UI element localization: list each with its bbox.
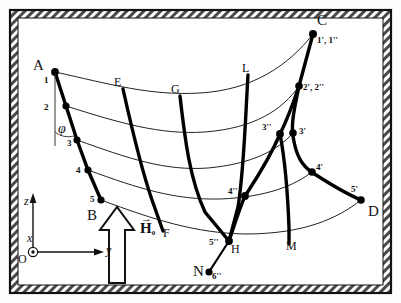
node-2prime — [295, 82, 303, 90]
label-node-4-doubleprime: 4'' — [228, 187, 238, 196]
label-axis-z: z — [24, 195, 29, 207]
label-field-vector-H0: → H0 — [140, 221, 155, 237]
node-5prime — [357, 196, 365, 204]
label-node-5: 5 — [90, 195, 95, 204]
field-vector-subscript: 0 — [152, 229, 156, 237]
node-4prime — [308, 168, 316, 176]
label-node-4: 4 — [76, 166, 81, 175]
node-1prime — [309, 30, 317, 38]
label-node-1-prime-doubleprime: 1', 1'' — [317, 36, 338, 45]
label-point-B: B — [87, 208, 97, 223]
node-5 — [97, 196, 104, 203]
label-node-3: 3 — [67, 139, 72, 148]
label-point-L: L — [242, 62, 249, 74]
label-point-E: E — [114, 76, 121, 88]
label-point-N: N — [193, 264, 204, 279]
label-node-5-prime: 5' — [351, 185, 358, 194]
node-4 — [84, 166, 91, 173]
label-axis-x: x — [27, 232, 32, 244]
label-point-M: M — [286, 240, 297, 252]
label-node-3-prime: 3' — [299, 127, 306, 136]
node-3doubleprime — [276, 130, 284, 138]
node-3 — [73, 136, 80, 143]
diagram-svg — [0, 0, 401, 303]
label-point-D: D — [368, 204, 379, 219]
node-2 — [62, 102, 69, 109]
label-node-2-prime-doubleprime: 2', 2'' — [303, 83, 324, 92]
x-axis-out-of-page-dot — [31, 250, 34, 253]
figure-frame — [10, 10, 391, 293]
label-axis-origin: O — [18, 253, 27, 265]
vector-overbar-arrow-icon: → — [141, 213, 152, 224]
label-point-A: A — [33, 58, 44, 73]
node-4doubleprime — [241, 192, 249, 200]
label-point-H: H — [231, 243, 240, 255]
label-node-1: 1 — [44, 76, 49, 85]
label-node-5-doubleprime: 5'' — [209, 238, 219, 247]
label-point-G: G — [171, 83, 180, 95]
node-3prime — [289, 129, 297, 137]
label-node-4-prime: 4' — [316, 163, 323, 172]
label-node-6-doubleprime: 6'' — [212, 272, 222, 281]
label-node-2: 2 — [44, 103, 49, 112]
label-axis-y: y — [106, 244, 111, 256]
diagram-container: A B C D E F G H L M N 1 2 3 4 5 1', 1'' … — [0, 0, 401, 303]
label-angle-phi: φ — [58, 122, 66, 136]
label-point-F: F — [163, 227, 170, 239]
label-node-3-doubleprime: 3'' — [262, 123, 272, 132]
label-point-C: C — [317, 13, 327, 28]
